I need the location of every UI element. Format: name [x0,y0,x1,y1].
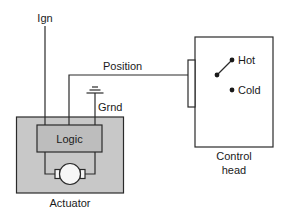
ground-label: Grnd [98,101,122,113]
hot-contact [230,58,235,63]
actuator-label: Actuator [50,197,91,209]
cold-contact [230,88,235,93]
position-label: Position [103,60,142,72]
control-head-box [195,37,273,147]
switch-pivot [215,73,220,78]
wiring-diagram: Logic Ign Position Grnd Actuator Hot Col… [0,0,288,217]
control-head-label-line2: head [222,164,246,176]
ground-icon [87,87,104,93]
ign-label: Ign [37,12,52,24]
cold-label: Cold [238,84,261,96]
logic-label: Logic [56,133,83,145]
control-head-label-line1: Control [216,150,251,162]
hot-label: Hot [238,54,255,66]
control-head-knob[interactable] [188,60,195,107]
